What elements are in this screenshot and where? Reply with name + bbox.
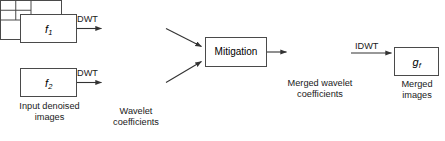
- input-image-1-box: f1: [20, 14, 77, 43]
- diagram-canvas: f1 f2 Mitigation gf DWT DWT IDWT Input d…: [0, 0, 445, 141]
- input-image-1-symbol: f1: [45, 23, 52, 35]
- edge-wavelet2-to-mitigation: [166, 62, 202, 83]
- caption-wavelet-coefficients: Wavelet coefficients: [95, 106, 177, 128]
- dwt-label-1: DWT: [77, 14, 98, 24]
- mitigation-box: Mitigation: [205, 37, 267, 67]
- caption-merged-wavelet-coefficients: Merged wavelet coefficients: [259, 78, 381, 100]
- input-image-2-symbol: f2: [45, 77, 52, 89]
- dwt-label-2: DWT: [77, 68, 98, 78]
- merged-image-symbol: gf: [412, 56, 420, 68]
- caption-input-images: Input denoised images: [2, 101, 97, 123]
- edge-wavelet1-to-mitigation: [166, 29, 202, 47]
- merged-image-box: gf: [394, 47, 439, 76]
- mitigation-label: Mitigation: [215, 47, 258, 57]
- input-image-2-box: f2: [20, 68, 77, 97]
- caption-merged-images: Merged images: [386, 79, 445, 101]
- idwt-label: IDWT: [355, 41, 378, 51]
